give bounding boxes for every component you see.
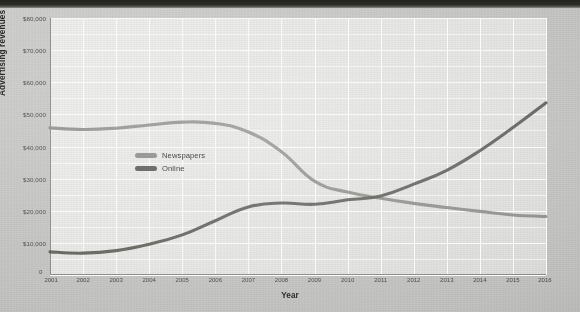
x-axis-tick-label: 2015 (506, 277, 519, 283)
series-line-online (50, 103, 546, 253)
legend-swatch-icon (135, 153, 157, 158)
x-axis-title: Year (0, 291, 580, 300)
x-axis-tick-label: 2003 (109, 277, 122, 283)
legend-swatch-icon (135, 166, 157, 171)
x-axis-tick-label: 2013 (440, 277, 453, 283)
x-axis-tick-label: 2012 (407, 277, 420, 283)
legend-label: Online (162, 164, 185, 173)
gridline-v (546, 18, 547, 275)
x-axis-tick-label: 2011 (374, 277, 387, 283)
y-axis-title: Advertising revenues in millions (0, 0, 7, 96)
x-axis-tick-label: 2008 (275, 277, 288, 283)
gridline-major-h (50, 275, 546, 276)
legend-item: Newspapers (135, 150, 205, 161)
x-axis-tick-label: 2009 (308, 277, 321, 283)
x-axis-tick-label: 2006 (209, 277, 222, 283)
y-axis-tick-label: $80,000 (23, 15, 46, 22)
x-axis-tick-label: 2005 (176, 277, 189, 283)
chart-legend: NewspapersOnline (135, 150, 205, 176)
y-axis-tick-label: $70,000 (23, 47, 46, 54)
y-axis-tick-label: $40,000 (23, 143, 46, 150)
legend-item: Online (135, 163, 205, 174)
x-axis-tick-label: 2010 (341, 277, 354, 283)
series-lines (50, 18, 546, 275)
y-axis-tick-label: $50,000 (23, 111, 46, 118)
x-axis-tick-label: 2002 (76, 277, 89, 283)
y-axis-tick-label: $10,000 (23, 239, 46, 246)
x-axis-tick-label: 2001 (44, 277, 57, 283)
y-axis-tick-label: $30,000 (23, 175, 46, 182)
chart-screenshot: $80,000$70,000$60,000$50,000$40,000$30,0… (0, 0, 580, 312)
y-axis-zero-label: 0 (39, 269, 42, 275)
x-axis-tick-label: 2004 (143, 277, 156, 283)
y-axis-tick-label: $60,000 (23, 79, 46, 86)
plot-area (50, 18, 546, 275)
x-axis-tick-label: 2016 (538, 277, 551, 283)
photo-top-band (0, 0, 580, 8)
x-axis-tick-label: 2014 (473, 277, 486, 283)
x-axis-labels: 2001200220032004200520062007200820092010… (50, 277, 546, 291)
y-axis-tick-label: $20,000 (23, 207, 46, 214)
legend-label: Newspapers (162, 151, 205, 160)
x-axis-tick-label: 2007 (242, 277, 255, 283)
